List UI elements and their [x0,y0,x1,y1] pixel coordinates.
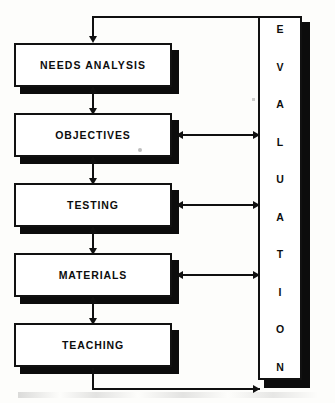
evaluation-letter: O [276,324,284,335]
objectives-shadow-bottom [20,157,179,164]
teaching-shadow-bottom [20,367,179,374]
bottom-feedback-vertical-line [92,368,94,390]
connector-materials-arrowhead-right [253,271,260,279]
connector-testing-to-materials-arrowhead-down [89,248,97,255]
testing-shadow-bottom [20,227,179,234]
connector-objectives-to-evaluation [178,134,260,136]
connector-testing-arrowhead-right [253,201,260,209]
process-box-label: OBJECTIVES [55,129,131,141]
process-box-materials[interactable]: MATERIALS [14,253,172,297]
top-feedback-arrowhead-down [89,36,97,43]
needs-analysis-shadow-bottom [20,87,179,94]
scan-artifact-speck [138,148,142,152]
top-feedback-horizontal-line [92,16,268,18]
connector-testing-arrowhead-left [176,201,183,209]
evaluation-letter: V [276,62,283,73]
evaluation-letter: A [276,99,284,110]
process-box-needs-analysis[interactable]: NEEDS ANALYSIS [14,43,172,87]
connector-materials-to-teaching-arrowhead-down [89,318,97,325]
bottom-feedback-arrowhead-right [253,385,260,393]
evaluation-letter: N [276,362,284,373]
evaluation-column[interactable]: E V A L U A T I O N [258,16,302,380]
evaluation-column-shadow-right [302,22,310,386]
evaluation-letter: E [276,24,283,35]
connector-testing-to-materials-arrowhead-up [89,226,97,233]
evaluation-letter: A [276,212,284,223]
evaluation-letter: I [279,287,282,298]
connector-objectives-arrowhead-right [253,131,260,139]
bottom-feedback-horizontal-line [92,388,260,390]
process-box-label: TESTING [67,199,119,211]
process-box-teaching[interactable]: TEACHING [14,323,172,367]
diagram-canvas: NEEDS ANALYSIS OBJECTIVES TESTING MATERI… [0,0,335,403]
scan-artifact-caption-smudge [18,392,318,398]
connector-needs-to-objectives-arrowhead-up [89,86,97,93]
connector-materials-to-evaluation [178,274,260,276]
process-box-label: NEEDS ANALYSIS [40,59,146,71]
scan-artifact-speck [252,98,255,101]
connector-objectives-arrowhead-left [176,131,183,139]
connector-materials-to-teaching-arrowhead-up [89,296,97,303]
evaluation-letter: U [276,174,284,185]
process-box-testing[interactable]: TESTING [14,183,172,227]
connector-testing-to-evaluation [178,204,260,206]
connector-materials-arrowhead-left [176,271,183,279]
evaluation-column-letters: E V A L U A T I O N [260,24,300,372]
process-box-label: MATERIALS [59,269,128,281]
connector-objectives-to-testing-arrowhead-up [89,156,97,163]
process-box-objectives[interactable]: OBJECTIVES [14,113,172,157]
evaluation-column-shadow-bottom [264,380,310,388]
process-box-label: TEACHING [62,339,124,351]
evaluation-letter: T [277,249,283,260]
materials-shadow-bottom [20,297,179,304]
connector-objectives-to-testing-arrowhead-down [89,178,97,185]
connector-needs-to-objectives-arrowhead-down [89,108,97,115]
evaluation-letter: L [277,137,283,148]
